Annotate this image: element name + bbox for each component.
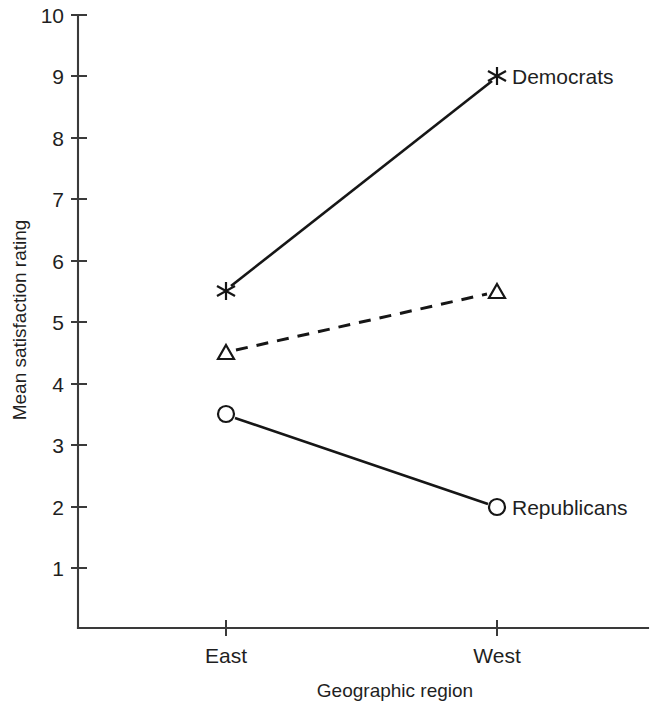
y-axis-title: Mean satisfaction rating [9, 220, 30, 421]
y-tick-label-2: 2 [52, 496, 64, 519]
series-republicans-marker-east [218, 406, 234, 422]
y-tick-label-7: 7 [52, 188, 64, 211]
series-republicans-line [235, 418, 488, 504]
y-tick-label-1: 1 [52, 557, 64, 580]
series-democrats-line [231, 81, 492, 286]
y-tick-label-9: 9 [52, 65, 64, 88]
series-republicans: Republicans [218, 406, 628, 519]
series-democrats: Democrats [217, 65, 614, 300]
series-label-republicans: Republicans [512, 496, 628, 519]
chart-page: 10 9 8 7 6 5 4 3 2 1 East West Geographi… [0, 0, 651, 706]
line-chart: 10 9 8 7 6 5 4 3 2 1 East West Geographi… [0, 0, 651, 706]
x-tick-label-west: West [473, 644, 521, 667]
y-tick-label-3: 3 [52, 434, 64, 457]
series-independents-line [236, 294, 487, 350]
series-label-democrats: Democrats [512, 65, 614, 88]
x-axis-title: Geographic region [317, 680, 473, 701]
series-independents-marker-west [489, 284, 505, 298]
y-tick-label-5: 5 [52, 311, 64, 334]
y-tick-label-4: 4 [52, 373, 64, 396]
y-tick-label-8: 8 [52, 127, 64, 150]
series-independents-marker-east [218, 345, 234, 359]
series-republicans-marker-west [489, 499, 505, 515]
x-tick-label-east: East [205, 644, 247, 667]
y-tick-label-6: 6 [52, 250, 64, 273]
y-tick-label-10: 10 [41, 4, 64, 27]
y-tick-labels: 10 9 8 7 6 5 4 3 2 1 [41, 4, 65, 580]
series-independents [218, 284, 505, 359]
x-tick-labels: East West [205, 644, 521, 667]
